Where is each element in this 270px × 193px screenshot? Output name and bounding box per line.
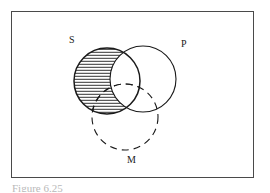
venn-label-p: P	[181, 39, 187, 49]
venn-label-s: S	[69, 35, 75, 45]
figure-root: S P M Figure 6.25	[0, 0, 270, 193]
figure-caption: Figure 6.25	[12, 183, 162, 192]
venn-label-m: M	[127, 155, 136, 165]
